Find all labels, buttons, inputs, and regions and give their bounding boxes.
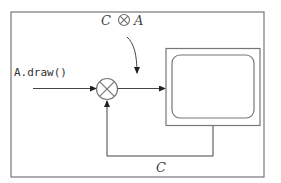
compositing-diagram: A.draw() C A C <box>0 0 281 183</box>
otimes-icon <box>119 15 130 26</box>
monitor-icon <box>166 49 260 126</box>
input-label: A.draw() <box>14 66 67 79</box>
composite-label-a: A <box>133 13 143 28</box>
monitor-bezel <box>166 49 260 126</box>
composite-pointer-arrow <box>127 37 137 73</box>
feedback-label: C <box>156 160 166 175</box>
composite-label-c: C <box>101 13 111 28</box>
monitor-screen <box>172 55 254 118</box>
feedback-arrow <box>107 101 213 156</box>
outer-frame <box>11 12 264 177</box>
circle-times-icon <box>97 79 118 100</box>
composite-label: C A <box>101 13 143 28</box>
